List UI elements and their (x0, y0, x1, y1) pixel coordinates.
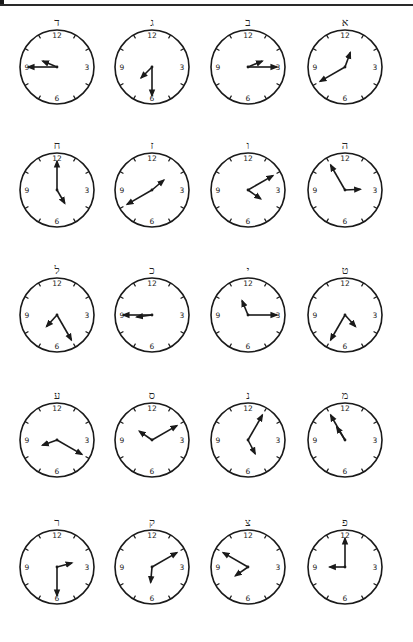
numeral-9: 9 (120, 436, 125, 445)
numeral-6: 6 (55, 467, 60, 476)
clock-label: נ (246, 389, 250, 402)
numeral-12: 12 (243, 279, 253, 288)
clock: ט12369 (308, 264, 382, 352)
numeral-9: 9 (216, 311, 221, 320)
numeral-3: 3 (373, 311, 378, 320)
clock-label: ק (149, 516, 155, 529)
clock-center (247, 189, 250, 192)
numeral-3: 3 (85, 63, 90, 72)
clock-label: כ (149, 264, 154, 277)
numeral-6: 6 (343, 467, 348, 476)
numeral-3: 3 (276, 563, 281, 572)
numeral-9: 9 (216, 186, 221, 195)
numeral-3: 3 (180, 63, 185, 72)
clock-center (344, 66, 347, 69)
numeral-9: 9 (25, 436, 30, 445)
numeral-12: 12 (52, 279, 62, 288)
clock: ו12369 (211, 139, 285, 227)
numeral-9: 9 (120, 186, 125, 195)
numeral-9: 9 (216, 436, 221, 445)
numeral-12: 12 (52, 531, 62, 540)
clock-label: ה (342, 139, 348, 152)
clock-center (151, 314, 154, 317)
numeral-9: 9 (25, 563, 30, 572)
numeral-6: 6 (246, 594, 251, 603)
clock-center (247, 314, 250, 317)
clock: ל12369 (20, 264, 94, 352)
clock: פ12369 (308, 516, 382, 604)
numeral-12: 12 (147, 404, 157, 413)
numeral-6: 6 (55, 217, 60, 226)
clock-label: פ (342, 516, 348, 529)
clock: נ12369 (211, 389, 285, 477)
numeral-9: 9 (25, 311, 30, 320)
numeral-9: 9 (313, 186, 318, 195)
clock: ד12369 (20, 16, 94, 104)
clock: ב12369 (211, 16, 285, 104)
clock-label: ד (54, 16, 59, 29)
clock-center (344, 189, 347, 192)
numeral-12: 12 (52, 404, 62, 413)
clock-label: א (342, 16, 349, 29)
numeral-3: 3 (85, 563, 90, 572)
numeral-6: 6 (246, 467, 251, 476)
clock-center (151, 566, 154, 569)
clock: ע12369 (20, 389, 94, 477)
numeral-12: 12 (340, 404, 350, 413)
numeral-3: 3 (373, 186, 378, 195)
clock-label: צ (245, 516, 251, 529)
numeral-6: 6 (343, 342, 348, 351)
clock-label: ב (245, 16, 250, 29)
numeral-6: 6 (150, 217, 155, 226)
clock-label: ז (150, 139, 153, 152)
clock-center (247, 66, 250, 69)
numeral-12: 12 (52, 31, 62, 40)
clock-center (151, 439, 154, 442)
numeral-3: 3 (180, 311, 185, 320)
numeral-12: 12 (147, 154, 157, 163)
numeral-6: 6 (246, 94, 251, 103)
numeral-12: 12 (243, 404, 253, 413)
numeral-3: 3 (276, 186, 281, 195)
clock: ה12369 (308, 139, 382, 227)
numeral-3: 3 (373, 563, 378, 572)
numeral-12: 12 (243, 31, 253, 40)
clock: מ12369 (308, 389, 382, 477)
clock-label: ג (150, 16, 154, 29)
clock: ס12369 (115, 389, 189, 477)
clock-center (344, 566, 347, 569)
numeral-9: 9 (25, 186, 30, 195)
clock: ז12369 (115, 139, 189, 227)
numeral-3: 3 (373, 63, 378, 72)
clock-label: מ (342, 389, 349, 402)
clock-worksheet: ד12369ג12369ב12369א12369ח12369ז12369ו123… (0, 0, 413, 642)
clock-label: ל (53, 264, 59, 277)
clock-center (56, 189, 59, 192)
numeral-12: 12 (340, 154, 350, 163)
clock-center (151, 66, 154, 69)
clock-label: י (247, 264, 250, 277)
numeral-12: 12 (147, 279, 157, 288)
numeral-9: 9 (313, 436, 318, 445)
numeral-9: 9 (120, 63, 125, 72)
numeral-12: 12 (243, 154, 253, 163)
clock-center (56, 439, 59, 442)
clock-center (247, 439, 250, 442)
clock-center (56, 314, 59, 317)
clock: צ12369 (211, 516, 285, 604)
numeral-12: 12 (340, 279, 350, 288)
hour-hand (345, 189, 361, 190)
numeral-3: 3 (85, 186, 90, 195)
numeral-9: 9 (313, 311, 318, 320)
clock: כ12369 (115, 264, 189, 352)
numeral-6: 6 (343, 217, 348, 226)
numeral-9: 9 (313, 563, 318, 572)
clock-label: ח (54, 139, 61, 152)
numeral-3: 3 (85, 436, 90, 445)
numeral-6: 6 (246, 217, 251, 226)
numeral-9: 9 (216, 63, 221, 72)
numeral-3: 3 (180, 563, 185, 572)
numeral-3: 3 (373, 436, 378, 445)
numeral-6: 6 (150, 342, 155, 351)
clock: ר12369 (20, 516, 94, 604)
